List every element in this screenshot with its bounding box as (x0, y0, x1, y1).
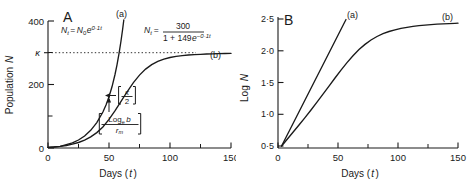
panel-b: 0·5 1·0 1·5 2·0 2·5 0 50 100 150 Days (t… (236, 0, 472, 182)
panel-a-x-axis-title: Days (t) (99, 168, 137, 179)
figure-container: 0 200 400 κ 0 50 100 150 Days (t) Popula… (0, 0, 472, 182)
panel-b-ylabel-text: Log (239, 85, 250, 102)
panel-b-xlabel-close: ) (375, 168, 378, 179)
panel-b-ytick-2-0: 2·0 (261, 46, 274, 56)
svg-text:rm: rm (116, 126, 124, 136)
annotation-inflection-time: Logeb rm (99, 114, 140, 136)
annotation-inflection-r-sub: m (119, 129, 124, 135)
panel-a-xtick-0: 0 (45, 152, 50, 163)
annotation-half-carrying-capacity: κ 2 (119, 87, 136, 106)
panel-b-ylabel-var: N (239, 73, 250, 81)
panel-b-xtick-0: 0 (275, 152, 280, 163)
panel-b-letter: B (284, 12, 293, 28)
eq-b-equals: = (154, 25, 159, 35)
panel-b-ytick-2-5: 2·5 (261, 14, 274, 24)
panel-b-curve-label-b: (b) (442, 12, 453, 22)
eq-a-lhs-sub: t (67, 30, 69, 36)
panel-b-curve-logistic (282, 23, 458, 146)
annotation-inflection-log: Log (108, 115, 121, 124)
panel-b-curve-label-a: (a) (347, 10, 358, 20)
panel-a-ylabel-var: N (4, 55, 15, 63)
eq-b-lhs-sub: t (150, 30, 152, 36)
annotation-half-k-denominator: 2 (125, 97, 130, 106)
panel-a-ylabel-text: Population (4, 67, 15, 114)
panel-b-y-ticks (278, 19, 284, 146)
panel-a-xtick-50: 50 (104, 152, 115, 163)
panel-b-x-axis-title: Days (t) (341, 168, 379, 179)
svg-text:PopulationN: PopulationN (4, 55, 15, 114)
panel-a-letter: A (63, 9, 73, 25)
panel-b-ytick-1-5: 1·5 (261, 78, 274, 88)
panel-a-curve-label-a: (a) (116, 9, 127, 19)
panel-b-curve-helper (282, 35, 458, 146)
svg-text:1 + 149e−0·1t: 1 + 149e−0·1t (163, 33, 211, 44)
panel-a-equation-exponential: Nt=N0e0·1t (61, 25, 102, 36)
panel-a-xlabel-close: ) (133, 168, 136, 179)
eq-b-denominator-exp: −0·1t (197, 33, 211, 39)
svg-text:Nt=: Nt= (144, 25, 159, 36)
svg-text:Days (t): Days (t) (99, 168, 137, 179)
panel-a-equation-logistic: Nt= 300 1 + 149e−0·1t (144, 21, 211, 43)
panel-b-xlabel-text: Days ( (341, 168, 371, 179)
panel-b-xtick-150: 150 (450, 152, 466, 163)
panel-b-curve-helper-5 (282, 31, 458, 146)
panel-a-xtick-100: 100 (162, 152, 178, 163)
panel-a-ytick-200: 200 (28, 79, 44, 90)
panel-a-curve-label-b: (b) (210, 50, 221, 60)
panel-a-curve-exponential (48, 20, 124, 147)
eq-b-numerator: 300 (176, 21, 190, 31)
eq-a-equals: = (70, 25, 75, 35)
panel-b-ytick-1-0: 1·0 (261, 109, 274, 119)
panel-a: 0 200 400 κ 0 50 100 150 Days (t) Popula… (0, 0, 236, 182)
eq-a-rhs-exp: 0·1t (92, 25, 103, 31)
panel-b-xtick-100: 100 (390, 152, 406, 163)
annotation-inflection-b: b (126, 115, 131, 124)
eq-b-denominator-1: 1 + 149 (163, 33, 192, 43)
panel-a-y-axis-title: PopulationN (4, 55, 15, 114)
panel-a-ytick-400: 400 (28, 16, 44, 27)
panel-a-curve-logistic (48, 53, 231, 147)
panel-b-curve-helper-4 (282, 30, 458, 146)
panel-a-ytick-kappa: κ (35, 47, 41, 58)
panel-a-xlabel-text: Days ( (99, 168, 129, 179)
svg-text:Logeb: Logeb (108, 115, 131, 125)
panel-b-x-ticks (278, 143, 458, 149)
panel-a-ytick-0: 0 (39, 143, 44, 154)
panel-b-curve-exponential (282, 20, 346, 147)
panel-b-y-axis-title: LogN (239, 73, 250, 102)
panel-b-curve-helper-3 (282, 30, 458, 147)
svg-text:LogN: LogN (239, 73, 250, 102)
annotation-inflection-log-sub: e (122, 119, 125, 125)
panel-b-xtick-50: 50 (333, 152, 344, 163)
panel-a-xtick-150: 150 (223, 152, 236, 163)
panel-b-curve-helper-2 (282, 34, 458, 146)
panel-a-y-ticks (44, 21, 54, 148)
panel-b-ytick-0-5: 0·5 (261, 141, 274, 151)
